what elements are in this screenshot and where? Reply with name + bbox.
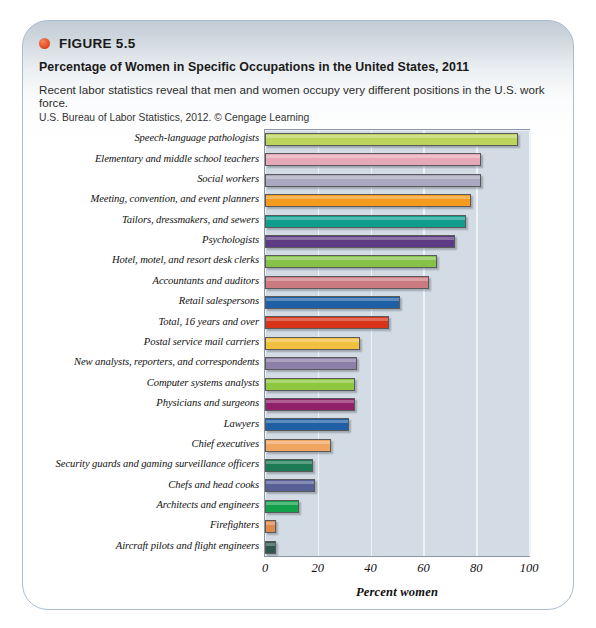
category-label: Tailors, dressmakers, and sewers (23, 214, 259, 225)
gridline-100 (529, 130, 531, 556)
x-tick-60: 60 (417, 561, 430, 576)
category-label: Aircraft pilots and flight engineers (23, 540, 259, 551)
bar[interactable] (265, 215, 466, 228)
bar[interactable] (265, 337, 360, 350)
bar[interactable] (265, 500, 299, 513)
x-tick-20: 20 (312, 561, 325, 576)
figure-bullet-icon (39, 38, 50, 49)
figure-description: Recent labor statistics reveal that men … (39, 83, 559, 109)
bar[interactable] (265, 418, 349, 431)
category-label: Chief executives (23, 438, 259, 449)
category-label: Elementary and middle school teachers (23, 153, 259, 164)
plot-area (264, 129, 530, 557)
category-label: Speech-language pathologists (23, 132, 259, 143)
category-label: Chefs and head cooks (23, 479, 259, 490)
bar[interactable] (265, 133, 518, 146)
bar[interactable] (265, 296, 400, 309)
bar[interactable] (265, 459, 313, 472)
category-label: Hotel, motel, and resort desk clerks (23, 254, 259, 265)
figure-label-row: FIGURE 5.5 (39, 34, 559, 52)
figure-title: Percentage of Women in Specific Occupati… (39, 60, 559, 74)
bar[interactable] (265, 439, 331, 452)
category-label: Social workers (23, 173, 259, 184)
x-tick-100: 100 (520, 561, 539, 576)
bar[interactable] (265, 541, 276, 554)
category-label: Lawyers (23, 418, 259, 429)
category-label: Firefighters (23, 519, 259, 530)
category-label: New analysts, reporters, and corresponde… (23, 356, 259, 367)
bar[interactable] (265, 357, 357, 370)
category-label: Psychologists (23, 234, 259, 245)
bar[interactable] (265, 174, 481, 187)
x-tick-40: 40 (364, 561, 377, 576)
bar[interactable] (265, 194, 471, 207)
bar-series (265, 130, 529, 556)
bar[interactable] (265, 520, 276, 533)
bar[interactable] (265, 398, 355, 411)
category-label: Computer systems analysts (23, 377, 259, 388)
bar[interactable] (265, 316, 389, 329)
bar[interactable] (265, 153, 481, 166)
bar[interactable] (265, 235, 455, 248)
figure-source: U.S. Bureau of Labor Statistics, 2012. ©… (39, 112, 559, 123)
bar[interactable] (265, 255, 437, 268)
category-label: Retail salespersons (23, 295, 259, 306)
category-label: Total, 16 years and over (23, 316, 259, 327)
category-label: Physicians and surgeons (23, 397, 259, 408)
bar[interactable] (265, 378, 355, 391)
figure-panel: FIGURE 5.5 Percentage of Women in Specif… (22, 20, 574, 610)
category-label: Architects and engineers (23, 499, 259, 510)
figure-label: FIGURE 5.5 (59, 36, 136, 51)
category-label: Accountants and auditors (23, 275, 259, 286)
category-label: Postal service mail carriers (23, 336, 259, 347)
bar[interactable] (265, 276, 429, 289)
category-axis-labels: Speech-language pathologistsElementary a… (23, 129, 259, 557)
bar-chart: Speech-language pathologistsElementary a… (23, 125, 574, 610)
bar[interactable] (265, 479, 315, 492)
x-axis-title: Percent women (264, 585, 530, 600)
x-tick-0: 0 (262, 561, 268, 576)
figure-header: FIGURE 5.5 Percentage of Women in Specif… (39, 34, 559, 123)
value-axis-ticks: 020406080100 (264, 561, 530, 581)
category-label: Security guards and gaming surveillance … (23, 458, 259, 469)
category-label: Meeting, convention, and event planners (23, 193, 259, 204)
x-tick-80: 80 (470, 561, 483, 576)
